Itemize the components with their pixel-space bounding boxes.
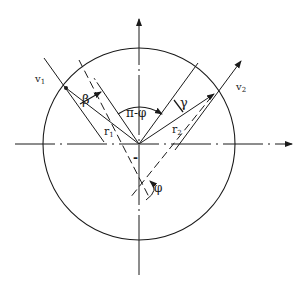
label-phi: φ (154, 181, 162, 195)
label-pi-minus-phi: π-φ (126, 106, 146, 120)
label-r1: r1 (104, 125, 114, 139)
label-minus: - (133, 151, 138, 165)
normal-right (139, 63, 198, 144)
velocity-v1-line (44, 58, 104, 142)
velocity-diagram: v1 v2 β γ π-φ r1 r2 φ - (0, 0, 305, 286)
dashed-ext-left (94, 78, 98, 84)
label-r2: r2 (172, 123, 182, 137)
label-v1: v1 (34, 73, 45, 86)
label-v2: v2 (235, 81, 246, 94)
label-gamma: γ (180, 95, 188, 110)
point-a (64, 86, 68, 90)
phi-arc (146, 181, 154, 200)
label-beta: β (82, 92, 90, 107)
